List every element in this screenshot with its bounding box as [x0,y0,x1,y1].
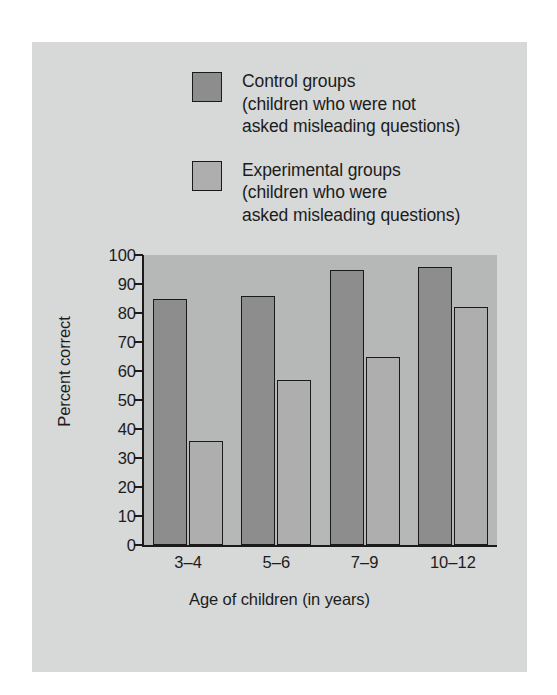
y-axis-tick-mark [134,399,143,401]
bar-experimental-1 [277,380,311,545]
x-axis-tick-labels: 3–45–67–910–12 [144,553,497,579]
x-axis-line [142,545,497,547]
x-axis-tick-label: 7–9 [351,553,379,572]
y-axis-tick-mark [134,486,143,488]
figure-panel: Control groups (children who were not as… [32,42,527,672]
y-axis-tick-mark [134,457,143,459]
y-axis-tick-mark [134,544,143,546]
x-axis-title: Age of children (in years) [32,590,527,609]
y-axis-tick-mark [134,312,143,314]
bar-control-2 [330,270,364,546]
bar-experimental-3 [454,307,488,545]
plot-area: Percent correct 0102030405060708090100 3… [32,42,527,672]
bar-experimental-2 [366,357,400,546]
y-axis-tick-mark [134,428,143,430]
bar-control-3 [418,267,452,545]
y-axis-tick-mark [134,283,143,285]
x-axis-tick-label: 5–6 [263,553,291,572]
y-axis-tick-mark [134,341,143,343]
bar-control-1 [241,296,275,545]
y-axis-tick-labels: 0102030405060708090100 [92,255,136,545]
bar-control-0 [153,299,187,546]
y-axis-tick-label: 100 [108,246,136,265]
y-axis-title: Percent correct [55,277,74,467]
y-axis-tick-mark [134,370,143,372]
y-axis-tick-mark [134,254,143,256]
x-axis-tick-label: 10–12 [430,553,476,572]
x-axis-tick-label: 3–4 [174,553,202,572]
bar-experimental-0 [189,441,223,545]
y-axis-tick-mark [134,515,143,517]
bar-series-container [144,255,497,545]
